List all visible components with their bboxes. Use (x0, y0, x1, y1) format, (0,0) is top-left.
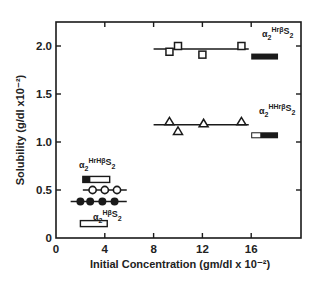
y-tick-label: 1.5 (36, 88, 53, 100)
square-marker (199, 51, 206, 58)
triangle-marker (165, 117, 174, 125)
range-bar (251, 54, 278, 60)
filled-circle-marker (86, 198, 94, 206)
open-circle-marker (89, 186, 96, 193)
triangle-marker (174, 127, 183, 135)
range-bar-open-part (252, 133, 260, 137)
series-open-circle (83, 176, 127, 193)
open-circle-marker (113, 186, 120, 193)
square-marker (166, 48, 173, 55)
triangle-marker (199, 119, 208, 127)
range-bar-filled-part (83, 176, 91, 182)
x-axis-label: Initial Concentration (gm/dl x 10⁻²) (90, 258, 271, 270)
x-tick-label: 8 (150, 243, 157, 255)
open-circle-marker (101, 186, 108, 193)
series-label: α2HrHβS2 (79, 157, 116, 172)
triangle-marker (237, 117, 246, 125)
x-tick-label: 4 (102, 243, 109, 255)
filled-circle-marker (76, 198, 84, 206)
y-axis-label: Solubility (g/dl x10⁻²) (14, 74, 26, 185)
solubility-chart: 0481216 00.51.01.52.0 Initial Concentrat… (0, 0, 314, 283)
x-tick-label: 12 (196, 243, 209, 255)
y-axis-ticks: 00.51.01.52.0 (36, 40, 301, 244)
y-tick-label: 0 (46, 232, 52, 244)
y-tick-label: 1.0 (36, 136, 52, 148)
x-tick-label: 16 (245, 243, 258, 255)
series-open-triangle (154, 117, 278, 138)
series-open-square (154, 43, 278, 60)
y-tick-label: 2.0 (36, 40, 52, 52)
series-label: α2HHrβS2 (259, 103, 296, 118)
square-marker (238, 43, 245, 50)
square-marker (175, 43, 182, 50)
y-tick-label: 0.5 (36, 184, 53, 196)
series-layer (71, 43, 278, 227)
x-tick-label: 0 (53, 243, 59, 255)
filled-circle-marker (98, 198, 106, 206)
filled-circle-marker (111, 198, 119, 206)
series-label: α2HrβS2 (262, 26, 294, 41)
